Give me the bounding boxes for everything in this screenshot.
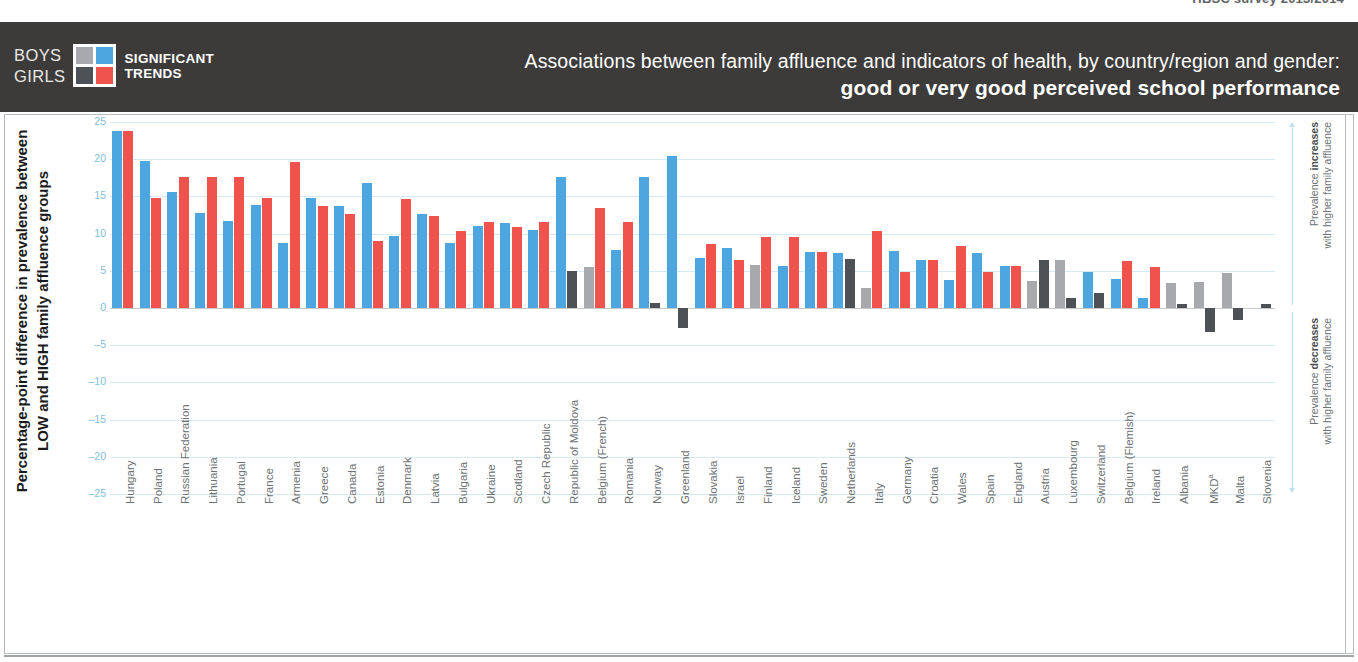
bar-boys-greece bbox=[306, 198, 316, 308]
x-axis-label-sweden: Sweden bbox=[817, 462, 829, 504]
bar-boys-slovakia bbox=[695, 258, 705, 308]
bar-boys-spain bbox=[972, 253, 982, 308]
x-axis-label-iceland: Iceland bbox=[790, 467, 802, 504]
increase-annotation-text: Prevalence increaseswith higher family a… bbox=[1308, 122, 1334, 302]
legend-significant-line2: TRENDS bbox=[125, 66, 215, 81]
bar-girls-netherlands bbox=[845, 259, 855, 308]
x-axis-label-czech-republic: Czech Republic bbox=[540, 423, 552, 504]
gridline--15 bbox=[110, 420, 1275, 421]
x-axis-label-poland: Poland bbox=[152, 468, 164, 504]
bar-girls-austria bbox=[1039, 260, 1049, 308]
x-axis-label-austria: Austria bbox=[1039, 468, 1051, 504]
x-axis-label-slovenia: Slovenia bbox=[1261, 460, 1273, 504]
gridline-25 bbox=[110, 122, 1275, 123]
x-axis-label-estonia: Estonia bbox=[374, 466, 386, 504]
bar-girls-latvia bbox=[429, 216, 439, 308]
swatch-boys-non-significant bbox=[76, 47, 93, 64]
x-axis-label-finland: Finland bbox=[762, 466, 774, 504]
bottom-rule bbox=[4, 655, 1354, 657]
x-axis-label-hungary: Hungary bbox=[124, 461, 136, 504]
x-axis-label-italy: Italy bbox=[873, 483, 885, 504]
x-axis-label-republic-of-moldova: Republic of Moldova bbox=[568, 400, 580, 504]
bar-boys-sweden bbox=[805, 252, 815, 308]
bar-girls-romania bbox=[623, 222, 633, 308]
bar-boys-switzerland bbox=[1083, 272, 1093, 308]
bar-boys-finland bbox=[750, 265, 760, 308]
bar-girls-ukraine bbox=[484, 222, 494, 308]
bar-boys-belgium-flemish- bbox=[1111, 279, 1121, 308]
bar-boys-hungary bbox=[112, 131, 122, 308]
bar-girls-poland bbox=[151, 198, 161, 308]
x-axis-label-canada: Canada bbox=[346, 464, 358, 504]
x-axis-label-england: England bbox=[1012, 462, 1024, 504]
bar-boys-ukraine bbox=[473, 226, 483, 308]
bar-boys-ireland bbox=[1138, 298, 1148, 308]
x-axis-label-switzerland: Switzerland bbox=[1095, 445, 1107, 504]
gridline-15 bbox=[110, 196, 1275, 197]
bar-boys-croatia bbox=[916, 260, 926, 308]
title-line-2: good or very good perceived school perfo… bbox=[340, 74, 1340, 101]
bar-girls-england bbox=[1011, 266, 1021, 308]
y-tick-label-15: 15 bbox=[66, 189, 106, 201]
y-axis-title: Percentage-point difference in prevalenc… bbox=[8, 114, 54, 514]
y-tick-label-25: 25 bbox=[66, 115, 106, 127]
bar-girls-finland bbox=[761, 237, 771, 308]
bar-girls-switzerland bbox=[1094, 293, 1104, 308]
bar-boys-mkd bbox=[1194, 282, 1204, 308]
gridline-20 bbox=[110, 159, 1275, 160]
bar-girls-germany bbox=[900, 272, 910, 308]
bar-girls-bulgaria bbox=[456, 231, 466, 308]
bar-girls-greenland bbox=[678, 308, 688, 328]
bar-girls-armenia bbox=[290, 162, 300, 308]
bar-girls-belgium-flemish- bbox=[1122, 261, 1132, 308]
x-axis-label-albania: Albania bbox=[1178, 466, 1190, 504]
bar-girls-wales bbox=[956, 246, 966, 308]
page-title: Associations between family affluence an… bbox=[340, 48, 1340, 101]
bar-girls-mkd bbox=[1205, 308, 1215, 332]
bar-boys-portugal bbox=[223, 221, 233, 308]
axis-direction-annotations: Prevalence increaseswith higher family a… bbox=[1286, 122, 1354, 494]
gridline-0 bbox=[110, 308, 1275, 309]
bar-girls-spain bbox=[983, 272, 993, 308]
bar-boys-wales bbox=[944, 280, 954, 308]
increase-arrow bbox=[1292, 127, 1293, 305]
x-axis-label-germany: Germany bbox=[901, 457, 913, 504]
x-axis-label-greece: Greece bbox=[318, 466, 330, 504]
bar-boys-albania bbox=[1166, 283, 1176, 308]
bar-boys-poland bbox=[140, 161, 150, 308]
x-axis-label-russian-federation: Russian Federation bbox=[179, 404, 191, 504]
x-axis-label-armenia: Armenia bbox=[290, 461, 302, 504]
bar-boys-romania bbox=[611, 250, 621, 308]
x-axis-label-romania: Romania bbox=[623, 458, 635, 504]
bar-girls-greece bbox=[318, 206, 328, 308]
y-tick-label-5: 5 bbox=[66, 264, 106, 276]
bar-boys-russian-federation bbox=[167, 192, 177, 308]
legend-girls-label: GIRLS bbox=[14, 66, 66, 87]
x-axis-label-luxembourg: Luxembourg bbox=[1067, 440, 1079, 504]
gridline-10 bbox=[110, 234, 1275, 235]
x-axis-label-spain: Spain bbox=[984, 475, 996, 504]
x-axis-label-france: France bbox=[263, 468, 275, 504]
x-axis-label-israel: Israel bbox=[734, 476, 746, 504]
decrease-annotation-text: Prevalence decreaseswith higher family a… bbox=[1308, 318, 1334, 494]
bar-boys-republic-of-moldova bbox=[556, 177, 566, 308]
x-axis-label-wales: Wales bbox=[956, 472, 968, 504]
bar-boys-israel bbox=[722, 248, 732, 308]
bar-girls-israel bbox=[734, 260, 744, 308]
gridline--10 bbox=[110, 382, 1275, 383]
bar-girls-russian-federation bbox=[179, 177, 189, 308]
legend: BOYS GIRLS SIGNIFICANT TRENDS bbox=[14, 44, 214, 87]
legend-gender-labels: BOYS GIRLS bbox=[14, 45, 66, 87]
bar-boys-denmark bbox=[389, 236, 399, 308]
bar-girls-canada bbox=[345, 214, 355, 308]
bar-boys-england bbox=[1000, 266, 1010, 308]
bar-girls-france bbox=[262, 198, 272, 308]
y-tick-label--15: –15 bbox=[66, 413, 106, 425]
legend-boys-label: BOYS bbox=[14, 45, 66, 66]
bar-boys-france bbox=[251, 205, 261, 308]
bar-boys-iceland bbox=[778, 266, 788, 308]
bar-girls-slovenia bbox=[1261, 304, 1271, 308]
bar-boys-latvia bbox=[417, 214, 427, 308]
x-axis-label-norway: Norway bbox=[651, 465, 663, 504]
x-axis-label-ireland: Ireland bbox=[1150, 469, 1162, 504]
